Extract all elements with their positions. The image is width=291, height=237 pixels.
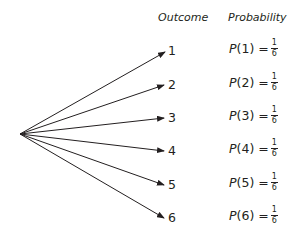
tree-diagram: Outcome Probability 1 2 3 4 5 6 P(1) = 1… xyxy=(0,0,291,237)
probability-expression: P(1) = 16 xyxy=(229,39,278,58)
probability-expression: P(5) = 16 xyxy=(229,173,278,192)
probability-expression: P(3) = 16 xyxy=(229,106,278,125)
probability-expression: P(2) = 16 xyxy=(229,73,278,92)
outcome-label: 4 xyxy=(168,143,176,158)
outcome-label: 5 xyxy=(168,177,176,192)
probability-expression: P(6) = 16 xyxy=(229,206,278,225)
outcome-label: 2 xyxy=(168,77,176,92)
outcome-label: 3 xyxy=(168,110,176,125)
outcome-label: 1 xyxy=(168,43,176,58)
outcome-label: 6 xyxy=(168,210,176,225)
probability-expression: P(4) = 16 xyxy=(229,139,278,158)
